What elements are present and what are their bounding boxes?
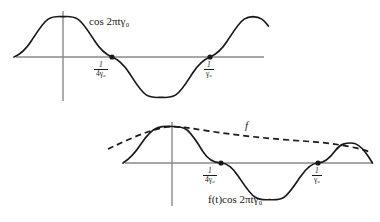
bottom-curve-label: f(t)cos 2πtγ₀ <box>208 194 262 205</box>
bottom-envelope-label: f <box>245 120 248 131</box>
bottom-tick-period-denominator: γ₀ <box>312 176 322 184</box>
figure-canvas <box>0 0 380 222</box>
top-tick-label-period: 1 γ₀ <box>204 60 214 78</box>
bottom-tick-label-period: 1 γ₀ <box>312 166 322 184</box>
figure-container: cos 2πtγ₀ 1 4γ₀ 1 γ₀ f 1 4γ₀ 1 γ₀ f(t)co… <box>0 0 380 222</box>
top-tick-dot-period <box>207 54 212 59</box>
bottom-envelope-curve <box>108 127 372 153</box>
bottom-tick-dot-quarter <box>218 160 223 165</box>
top-curve-label: cos 2πtγ₀ <box>89 16 129 27</box>
bottom-tick-dot-period <box>315 160 320 165</box>
top-tick-label-quarter: 1 4γ₀ <box>94 60 108 78</box>
top-panel <box>14 11 268 101</box>
top-tick-quarter-denominator: 4γ₀ <box>94 70 108 78</box>
top-tick-dot-quarter <box>109 54 114 59</box>
bottom-tick-label-quarter: 1 4γ₀ <box>203 166 217 184</box>
top-tick-period-denominator: γ₀ <box>204 70 214 78</box>
bottom-tick-quarter-denominator: 4γ₀ <box>203 176 217 184</box>
